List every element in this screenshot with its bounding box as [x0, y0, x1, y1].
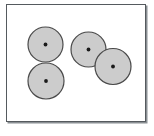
circle-bottom-left-group-center-dot [44, 79, 48, 83]
circle-lower-right-group-center-dot [111, 65, 115, 69]
figure-container [0, 0, 154, 136]
overlapping-circles-diagram [0, 0, 154, 136]
circle-group-right-diagonal-pair [71, 32, 131, 85]
circle-upper-right-group-center-dot [87, 48, 91, 52]
circle-group-left-vertical-pair [28, 27, 64, 99]
figure-caption [10, 126, 144, 135]
circle-top-left-group-center-dot [44, 43, 48, 47]
